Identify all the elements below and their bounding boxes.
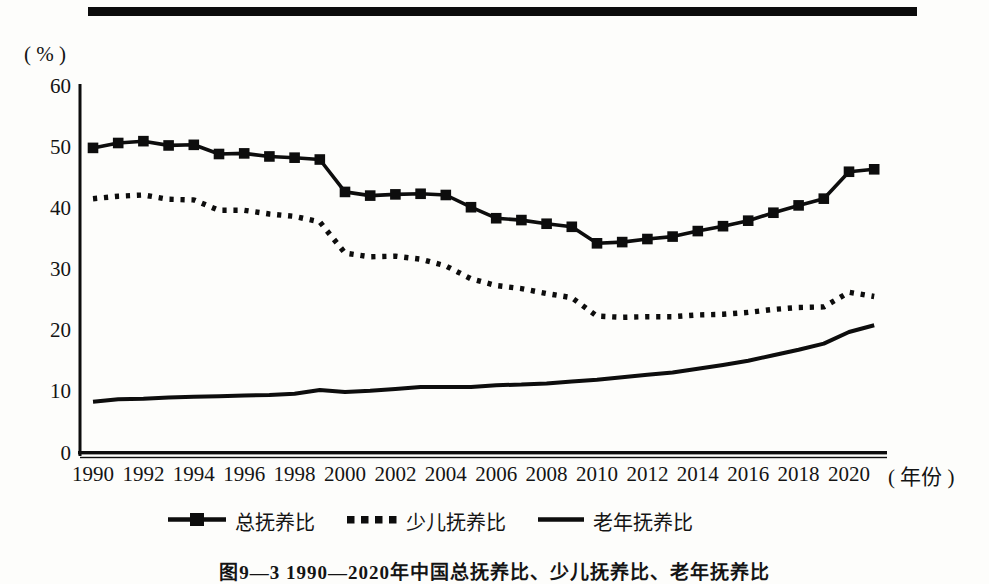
- square-marker: [693, 226, 704, 237]
- x-tick-label: 1994: [173, 462, 216, 486]
- square-marker: [113, 138, 124, 149]
- square-marker: [189, 140, 200, 151]
- square-marker: [667, 231, 678, 242]
- square-marker: [466, 202, 477, 213]
- x-tick-label: 2014: [677, 462, 720, 486]
- x-tick-label: 2020: [828, 462, 870, 486]
- square-marker: [541, 218, 552, 229]
- square-marker: [214, 149, 225, 160]
- square-marker: [415, 188, 426, 199]
- chart-legend: 总抚养比 少儿抚养比 老年抚养比: [168, 508, 693, 534]
- legend-label-elderly: 老年抚养比: [593, 507, 693, 536]
- y-tick-label: 10: [50, 379, 71, 403]
- x-tick-label: 2018: [778, 462, 820, 486]
- square-marker: [793, 200, 804, 211]
- square-marker: [239, 148, 250, 159]
- x-tick-label: 2016: [727, 462, 769, 486]
- y-tick-label: 0: [61, 441, 72, 465]
- legend-item-elderly: 老年抚养比: [538, 507, 693, 536]
- square-marker: [88, 143, 99, 154]
- square-marker: [642, 234, 653, 245]
- legend-label-total: 总抚养比: [235, 507, 315, 536]
- square-marker: [390, 189, 401, 200]
- series-line-square-markers: [93, 141, 874, 243]
- x-axis-shadow-line: [80, 457, 887, 458]
- square-marker: [289, 152, 300, 163]
- square-marker: [441, 190, 452, 201]
- x-tick-label: 2010: [576, 462, 618, 486]
- square-marker: [617, 237, 628, 248]
- y-tick-label: 50: [50, 135, 71, 159]
- square-marker: [491, 213, 502, 224]
- x-tick-label: 1996: [223, 462, 265, 486]
- x-tick-label: 2000: [324, 462, 366, 486]
- square-marker: [567, 221, 578, 232]
- y-tick-label: 60: [50, 74, 71, 98]
- y-axis-line: [79, 84, 82, 456]
- legend-label-child: 少儿抚养比: [406, 507, 506, 536]
- square-marker: [163, 140, 174, 151]
- legend-item-total: 总抚养比: [168, 507, 315, 536]
- legend-item-child: 少儿抚养比: [347, 507, 506, 536]
- x-axis-unit-label: ( 年份 ): [888, 460, 955, 490]
- solid-line-icon: [538, 511, 584, 532]
- x-axis-line: [78, 451, 887, 454]
- square-marker: [768, 207, 779, 218]
- square-marker: [138, 136, 149, 147]
- x-tick-label: 2012: [626, 462, 668, 486]
- square-marker: [264, 151, 275, 162]
- x-tick-label: 2008: [526, 462, 568, 486]
- x-tick-label: 2002: [374, 462, 416, 486]
- figure-caption: 图9—3 1990—2020年中国总抚养比、少儿抚养比、老年抚养比: [0, 557, 989, 584]
- series-solid: [93, 325, 874, 401]
- y-tick-label: 40: [50, 196, 71, 220]
- x-tick-label: 2004: [425, 462, 468, 486]
- square-marker: [869, 164, 880, 175]
- y-tick-label: 30: [50, 257, 71, 281]
- x-tick-label: 1998: [274, 462, 316, 486]
- x-tick-label: 1990: [72, 462, 114, 486]
- square-marker: [743, 215, 754, 226]
- square-marker: [516, 215, 527, 226]
- x-tick-label: 2006: [475, 462, 517, 486]
- square-marker: [365, 190, 376, 201]
- square-marker: [340, 187, 351, 198]
- dotted-line-icon: [347, 511, 397, 532]
- square-marker-line-icon: [168, 511, 226, 532]
- x-tick-label: 1992: [122, 462, 164, 486]
- square-marker: [592, 238, 603, 249]
- square-marker: [718, 221, 729, 232]
- square-marker: [315, 154, 326, 165]
- y-tick-label: 20: [50, 318, 71, 342]
- square-marker: [844, 166, 855, 177]
- square-marker: [819, 193, 830, 204]
